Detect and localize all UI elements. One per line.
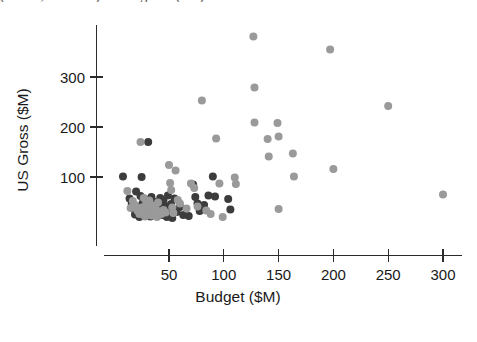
- data-point-dark: [211, 193, 219, 201]
- x-axis-title: Budget ($M): [195, 288, 280, 305]
- data-point-light: [249, 33, 257, 41]
- data-point-light: [169, 209, 177, 217]
- data-point-light: [198, 97, 206, 105]
- x-tick-label-200: 200: [321, 266, 346, 283]
- data-point-dark: [209, 173, 217, 181]
- data-point-light: [176, 200, 184, 208]
- data-point-light: [194, 203, 202, 211]
- data-point-light: [384, 102, 392, 110]
- data-point-light: [232, 180, 240, 188]
- data-point-dark: [138, 173, 146, 181]
- data-point-dark: [144, 138, 152, 146]
- data-point-light: [137, 138, 145, 146]
- data-point-dark: [224, 195, 232, 203]
- data-point-light: [207, 210, 215, 218]
- data-point-light: [219, 213, 227, 221]
- x-tick-label-50: 50: [161, 266, 178, 283]
- data-point-light: [183, 205, 191, 213]
- data-point-light: [250, 119, 258, 127]
- data-point-light: [123, 187, 131, 195]
- data-point-light: [265, 153, 273, 161]
- data-point-light: [162, 209, 170, 217]
- data-point-light: [166, 179, 174, 187]
- plot-canvas: 100200300 50100150200250300 Budget ($M) …: [0, 0, 477, 342]
- y-tick-label-200: 200: [60, 119, 85, 136]
- data-point-light: [167, 186, 175, 194]
- data-point-light: [165, 161, 173, 169]
- y-axis-title: US Gross ($M): [14, 88, 31, 191]
- data-point-dark: [119, 173, 127, 181]
- data-point-light: [154, 199, 162, 207]
- scatter-plot-figure: (a film, a studio) and a gross (US) 1002…: [0, 0, 477, 342]
- x-tick-label-250: 250: [376, 266, 401, 283]
- data-point-light: [439, 191, 447, 199]
- y-tick-label-100: 100: [60, 169, 85, 186]
- data-point-light: [190, 184, 198, 192]
- data-point-dark: [226, 206, 234, 214]
- data-points-layer: [119, 33, 447, 223]
- data-point-light: [275, 133, 283, 141]
- data-point-light: [329, 165, 337, 173]
- data-point-light: [290, 173, 298, 181]
- data-point-light: [275, 205, 283, 213]
- y-tick-label-300: 300: [60, 69, 85, 86]
- data-point-dark: [185, 212, 193, 220]
- x-tick-label-100: 100: [211, 266, 236, 283]
- data-point-light: [326, 46, 334, 54]
- data-point-light: [212, 135, 220, 143]
- x-axis-ticks: 50100150200250300: [161, 249, 456, 283]
- data-point-light: [274, 119, 282, 127]
- data-point-light: [250, 84, 258, 92]
- x-tick-label-300: 300: [430, 266, 455, 283]
- data-point-light: [172, 167, 180, 175]
- data-point-light: [215, 180, 223, 188]
- data-point-light: [264, 135, 272, 143]
- x-tick-label-150: 150: [266, 266, 291, 283]
- data-point-light: [289, 150, 297, 158]
